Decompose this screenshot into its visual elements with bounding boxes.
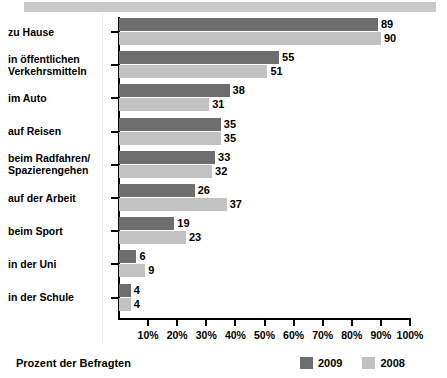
y-tick xyxy=(111,197,119,199)
bar-value-label: 26 xyxy=(198,184,210,197)
category-label-4: beim Radfahren/Spazierengehen xyxy=(8,152,114,176)
x-tick xyxy=(264,320,266,326)
y-tick xyxy=(111,164,119,166)
bar-value-label: 4 xyxy=(134,298,140,311)
bar-2008-0 xyxy=(119,32,381,45)
legend-swatch-icon xyxy=(362,357,375,369)
category-label-line: auf Reisen xyxy=(8,125,114,137)
y-tick xyxy=(111,64,119,66)
y-tick xyxy=(111,131,119,133)
category-label-7: in der Uni xyxy=(8,258,114,270)
category-label-1: in öffentlichenVerkehrsmitteln xyxy=(8,53,114,77)
bar-2009-5 xyxy=(119,184,195,197)
bar-value-label: 35 xyxy=(224,118,236,131)
category-label-line: Verkehrsmitteln xyxy=(8,65,114,77)
category-label-0: zu Hause xyxy=(8,26,114,38)
legend-swatch-icon xyxy=(300,357,313,369)
bar-value-label: 38 xyxy=(233,84,245,97)
category-label-line: auf der Arbeit xyxy=(8,192,114,204)
bar-2008-3 xyxy=(119,132,221,145)
bar-value-label: 4 xyxy=(134,284,140,297)
y-tick xyxy=(111,230,119,232)
bar-2009-3 xyxy=(119,118,221,131)
bar-2008-4 xyxy=(119,165,212,178)
bar-value-label: 6 xyxy=(139,250,145,263)
category-label-line: beim Radfahren/ xyxy=(8,152,114,164)
category-label-line: in öffentlichen xyxy=(8,53,114,65)
bar-chart: zu Hausein öffentlichenVerkehrsmittelnim… xyxy=(0,0,447,378)
bar-value-label: 51 xyxy=(270,65,282,78)
bar-2009-4 xyxy=(119,151,215,164)
x-tick xyxy=(380,320,382,326)
category-label-line: Spazierengehen xyxy=(8,164,114,176)
legend-item-2009: 2009 xyxy=(300,357,342,369)
x-tick xyxy=(293,320,295,326)
category-label-line: in der Uni xyxy=(8,258,114,270)
legend-item-2008: 2008 xyxy=(362,357,404,369)
x-tick xyxy=(205,320,207,326)
bars-area: 89905551383135353332263719236944 xyxy=(119,18,410,317)
x-tick xyxy=(409,320,411,326)
category-label-3: auf Reisen xyxy=(8,125,114,137)
bar-value-label: 89 xyxy=(381,18,393,31)
x-tick xyxy=(322,320,324,326)
bar-2008-6 xyxy=(119,231,186,244)
y-tick xyxy=(111,263,119,265)
header-band xyxy=(24,2,436,12)
bar-2009-0 xyxy=(119,18,378,31)
x-tick xyxy=(147,320,149,326)
axis-caption: Prozent der Befragten xyxy=(16,357,131,369)
bar-2008-8 xyxy=(119,298,131,311)
bar-value-label: 31 xyxy=(212,98,224,111)
x-tick xyxy=(351,320,353,326)
x-tick-label: 100% xyxy=(393,329,427,341)
bar-value-label: 23 xyxy=(189,231,201,244)
bar-value-label: 33 xyxy=(218,151,230,164)
bar-2008-1 xyxy=(119,65,267,78)
category-label-2: im Auto xyxy=(8,92,114,104)
y-tick xyxy=(111,31,119,33)
category-label-line: zu Hause xyxy=(8,26,114,38)
bar-2008-5 xyxy=(119,198,227,211)
bar-value-label: 90 xyxy=(384,32,396,45)
x-tick xyxy=(176,320,178,326)
bar-2009-1 xyxy=(119,51,279,64)
bar-value-label: 32 xyxy=(215,165,227,178)
bar-value-label: 9 xyxy=(148,264,154,277)
legend-label: 2009 xyxy=(318,357,342,369)
category-label-line: beim Sport xyxy=(8,225,114,237)
category-label-8: in der Schule xyxy=(8,291,114,303)
bar-value-label: 37 xyxy=(230,198,242,211)
legend-label: 2008 xyxy=(380,357,404,369)
bar-2009-2 xyxy=(119,84,230,97)
y-tick xyxy=(111,97,119,99)
bar-2009-8 xyxy=(119,284,131,297)
chart-legend: 20092008 xyxy=(300,357,419,369)
x-tick xyxy=(234,320,236,326)
y-tick xyxy=(111,297,119,299)
category-label-6: beim Sport xyxy=(8,225,114,237)
bar-value-label: 19 xyxy=(177,217,189,230)
bar-value-label: 55 xyxy=(282,51,294,64)
bar-2008-2 xyxy=(119,98,209,111)
bar-value-label: 35 xyxy=(224,132,236,145)
bar-2009-7 xyxy=(119,250,136,263)
bar-2008-7 xyxy=(119,264,145,277)
category-label-5: auf der Arbeit xyxy=(8,192,114,204)
bar-2009-6 xyxy=(119,217,174,230)
category-label-line: im Auto xyxy=(8,92,114,104)
category-label-line: in der Schule xyxy=(8,291,114,303)
